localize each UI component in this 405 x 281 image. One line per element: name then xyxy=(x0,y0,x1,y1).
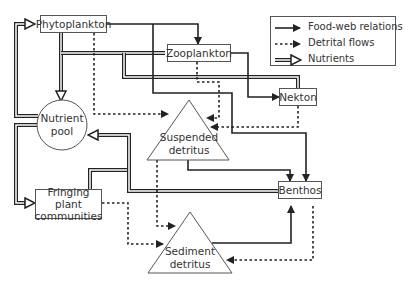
phyto-to-susp xyxy=(94,33,168,114)
nutrient-pool-label-line2: pool xyxy=(37,125,87,138)
node-zooplankton: Zooplankton xyxy=(167,44,231,62)
fringing-to-sediment xyxy=(102,203,163,244)
suspended-detritus-label-line2: detritus xyxy=(154,144,224,157)
sediment-detritus-label-line1: Sediment xyxy=(155,245,225,258)
legend-nutrients-label: Nutrients xyxy=(308,53,354,64)
sediment-to-benthos xyxy=(212,206,291,243)
fringing-label-line1: Fringing plant xyxy=(36,186,101,210)
nekton-to-susp xyxy=(211,106,298,127)
node-fringing-plant-communities: Fringing plant communities xyxy=(35,189,102,219)
benthos-to-sediment xyxy=(227,206,313,260)
nutrient-pool-label-line1: Nutrient xyxy=(37,112,87,125)
node-suspended-detritus: Suspended detritus xyxy=(154,131,224,157)
phytoplankton-label: Phytoplankton xyxy=(36,18,112,30)
node-sediment-detritus: Sediment detritus xyxy=(155,245,225,271)
node-nutrient-pool: Nutrient pool xyxy=(37,112,87,138)
nutrient-pool-to-phyto xyxy=(16,24,38,116)
node-phytoplankton: Phytoplankton xyxy=(40,15,107,33)
benthos-label: Benthos xyxy=(279,184,322,196)
node-nekton: Nekton xyxy=(279,88,317,106)
zooplankton-label: Zooplankton xyxy=(166,47,232,59)
sediment-detritus-label-line2: detritus xyxy=(155,258,225,271)
susp-to-benthos xyxy=(188,160,290,181)
nekton-label: Nekton xyxy=(279,91,317,103)
suspended-detritus-label-line1: Suspended xyxy=(154,131,224,144)
fringing-label-line2: communities xyxy=(35,210,103,222)
node-benthos: Benthos xyxy=(278,181,322,199)
legend-food-web-label: Food-web relations xyxy=(308,21,403,32)
zoo-to-susp xyxy=(197,62,219,118)
legend-detrital-label: Detrital flows xyxy=(308,37,374,48)
